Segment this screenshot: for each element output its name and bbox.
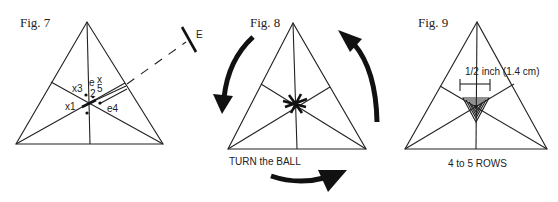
fig7-point-e2 xyxy=(84,93,87,96)
fig7-label-x1: x1 xyxy=(65,101,76,112)
fig7-label-E: E xyxy=(196,29,203,40)
fig8-right-arrow xyxy=(354,44,377,122)
fig7-label-x3: x3 xyxy=(72,83,83,94)
fig7-E-bar xyxy=(182,27,196,52)
fig8-median-left xyxy=(228,87,330,149)
fig9-measure-label: 1/2 inch (1.4 cm) xyxy=(465,66,539,77)
fig7-point-e4 xyxy=(98,101,101,104)
fig8-bottom-arrow xyxy=(271,176,324,181)
fig8-median-vertical xyxy=(293,23,297,149)
fig7-label-2: 2 xyxy=(90,88,96,99)
fig8-median-right xyxy=(261,84,366,149)
figure-8: Fig. 8 TURN the BALL xyxy=(213,15,377,192)
fig9-measure-bracket xyxy=(460,79,490,91)
fig8-left-arrowhead xyxy=(213,94,233,114)
fig7-dashed-line xyxy=(127,42,186,84)
fig8-left-arrow xyxy=(224,37,253,98)
figure-7: Fig. 7 x3 e 2 x 5 x1 e4 E xyxy=(16,15,203,144)
fig8-caption: TURN the BALL xyxy=(229,156,301,167)
fig7-label-e4: e4 xyxy=(107,103,119,114)
fig9-median-vertical xyxy=(476,22,477,149)
fig9-title: Fig. 9 xyxy=(418,15,448,30)
fig7-label-5: 5 xyxy=(97,83,103,94)
fig9-rows xyxy=(463,98,489,122)
fig7-title: Fig. 7 xyxy=(20,15,51,30)
fig9-median-left xyxy=(405,84,514,149)
fig7-point-bottom xyxy=(85,111,88,114)
fig9-median-right xyxy=(440,86,547,149)
fig9-caption: 4 to 5 ROWS xyxy=(448,158,507,169)
fig7-label-e: e xyxy=(89,77,95,88)
diagram-canvas: Fig. 7 x3 e 2 x 5 x1 e4 E Fig. 8 xyxy=(0,0,558,202)
fig8-title: Fig. 8 xyxy=(250,15,280,30)
figure-9: Fig. 9 1/2 inch (1.4 cm) 4 to 5 ROWS xyxy=(405,15,547,169)
